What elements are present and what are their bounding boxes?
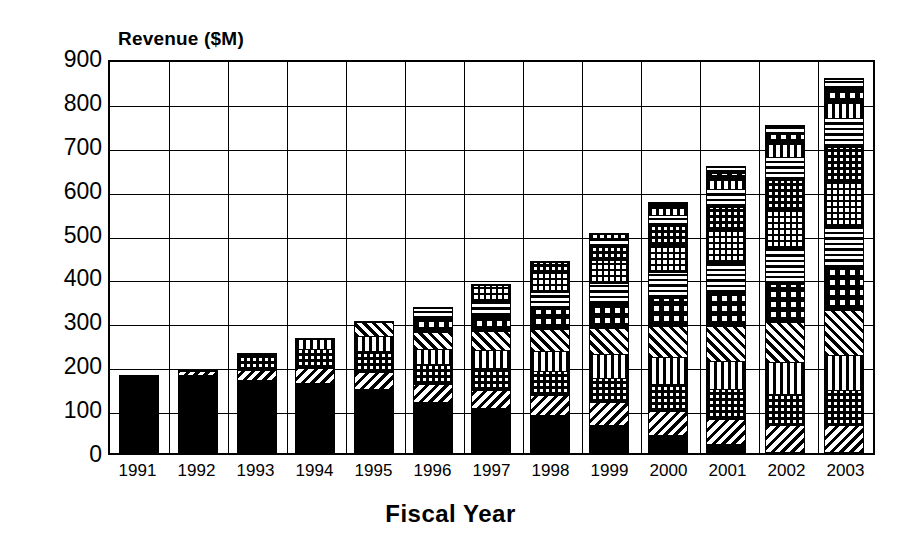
bar-segment: [531, 371, 569, 394]
stacked-bar[interactable]: [706, 166, 746, 453]
bar-segment: [707, 189, 745, 206]
bar-slot: [521, 62, 580, 453]
bar-segment: [472, 408, 510, 452]
stacked-bar[interactable]: [824, 78, 864, 453]
bar-segment: [414, 364, 452, 384]
stacked-bar[interactable]: [765, 125, 805, 453]
y-axis-tick-labels: 9008007006005004003002001000: [32, 60, 102, 455]
bar-segment: [766, 144, 804, 157]
bar-segment: [355, 351, 393, 372]
bar-segment: [707, 419, 745, 444]
bar-segment: [649, 326, 687, 357]
bar-segment: [707, 293, 745, 326]
bar-segment: [590, 402, 628, 425]
bar-segment: [707, 180, 745, 189]
bar-segment: [825, 89, 863, 102]
bar-segment: [179, 375, 217, 452]
bar-slot: [227, 62, 286, 453]
bar-segment: [825, 226, 863, 267]
stacked-bar[interactable]: [471, 284, 511, 453]
revenue-stacked-bar-chart: Revenue ($M) 900800700600500400300200100…: [0, 0, 901, 547]
x-tick-label: 1996: [403, 461, 462, 489]
bar-segment: [707, 326, 745, 361]
stacked-bar[interactable]: [413, 307, 453, 453]
bar-segment: [472, 350, 510, 368]
bar-segment: [355, 372, 393, 389]
bar-segment: [590, 354, 628, 377]
bar-segment: [825, 426, 863, 452]
x-tick-label: 1999: [580, 461, 639, 489]
bar-segment: [825, 79, 863, 89]
bar-segment: [649, 245, 687, 272]
bar-segment: [766, 248, 804, 283]
bar-slot: [580, 62, 639, 453]
bar-segment: [825, 310, 863, 355]
bar-segment: [707, 207, 745, 230]
stacked-bar[interactable]: [119, 375, 159, 453]
x-tick-label: 2000: [639, 461, 698, 489]
bar-segment: [472, 315, 510, 331]
bar-segment: [590, 260, 628, 283]
bar-segment: [472, 368, 510, 390]
stacked-bar[interactable]: [237, 353, 277, 453]
y-axis-title: Revenue ($M): [118, 28, 244, 50]
stacked-bar[interactable]: [530, 261, 570, 453]
bar-segment: [414, 319, 452, 332]
y-tick-label: 600: [40, 180, 102, 203]
y-tick-label: 800: [40, 92, 102, 115]
bar-segment: [296, 368, 334, 383]
x-axis-title: Fiscal Year: [0, 500, 901, 528]
bar-segment: [707, 361, 745, 390]
bar-segment: [825, 182, 863, 226]
bar-segment: [825, 390, 863, 425]
bar-segment: [766, 426, 804, 452]
stacked-bar[interactable]: [295, 338, 335, 453]
bar-segment: [414, 384, 452, 402]
y-tick-label: 200: [40, 355, 102, 378]
x-tick-label: 2003: [816, 461, 875, 489]
bar-segment: [649, 435, 687, 452]
bar-slot: [403, 62, 462, 453]
bar-segment: [766, 284, 804, 322]
bar-segment: [825, 355, 863, 390]
bar-segment: [825, 118, 863, 147]
y-tick-label: 700: [40, 136, 102, 159]
bar-segment: [531, 415, 569, 452]
y-tick-label: 900: [40, 48, 102, 71]
stacked-bar[interactable]: [648, 202, 688, 453]
bar-segment: [649, 215, 687, 227]
bar-slot: [756, 62, 815, 453]
bar-segment: [296, 383, 334, 452]
bar-segment: [825, 147, 863, 182]
bar-segment: [649, 357, 687, 383]
bar-group: [110, 62, 873, 453]
bar-slot: [110, 62, 169, 453]
bar-segment: [590, 304, 628, 328]
bar-segment: [531, 309, 569, 329]
stacked-bar[interactable]: [589, 233, 629, 453]
bar-segment: [590, 328, 628, 354]
bar-slot: [169, 62, 228, 453]
bar-segment: [414, 349, 452, 365]
bar-segment: [414, 308, 452, 319]
bar-segment: [649, 226, 687, 245]
bar-slot: [345, 62, 404, 453]
bar-slot: [286, 62, 345, 453]
bar-segment: [766, 322, 804, 362]
y-tick-label: 100: [40, 399, 102, 422]
stacked-bar[interactable]: [354, 321, 394, 453]
x-tick-label: 1994: [285, 461, 344, 489]
bar-segment: [238, 370, 276, 379]
x-tick-label: 1991: [108, 461, 167, 489]
bar-segment: [649, 411, 687, 435]
y-tick-label: 300: [40, 311, 102, 334]
bar-segment: [531, 262, 569, 273]
bar-segment: [355, 389, 393, 452]
bar-slot: [462, 62, 521, 453]
x-tick-label: 2001: [698, 461, 757, 489]
bar-segment: [766, 157, 804, 180]
bar-segment: [825, 103, 863, 119]
bar-segment: [472, 331, 510, 350]
x-tick-label: 1995: [344, 461, 403, 489]
stacked-bar[interactable]: [178, 370, 218, 453]
